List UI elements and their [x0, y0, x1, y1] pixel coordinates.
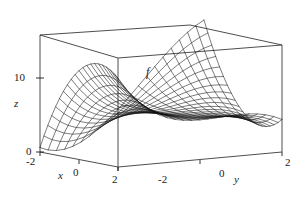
x-tick-label-0: 0	[73, 167, 79, 178]
y-tick-label-minus2: -2	[158, 174, 167, 185]
y-tick-label-0: 0	[219, 168, 225, 179]
axis-bounding-box	[40, 25, 282, 167]
wireframe-surface-mesh	[40, 20, 282, 151]
x-tick-label-minus2: -2	[26, 156, 35, 167]
surface-plot-figure: 10 0 z -2 0 2 x -2 0 2 y f	[0, 0, 305, 206]
y-axis-label: y	[234, 174, 239, 185]
surface-function-label: f	[146, 66, 149, 78]
z-tick-label-10: 10	[14, 72, 25, 83]
x-axis-label: x	[58, 170, 63, 181]
z-axis-label: z	[14, 98, 18, 109]
y-tick-label-2: 2	[285, 157, 291, 168]
axis-tick-marks	[36, 78, 282, 171]
surface-plot-canvas	[0, 0, 305, 206]
x-tick-label-2: 2	[112, 174, 118, 185]
